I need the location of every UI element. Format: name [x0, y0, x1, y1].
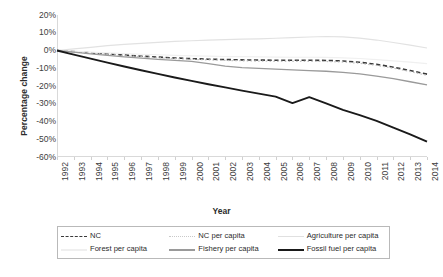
x-tick-mark [158, 157, 159, 160]
y-tick-label: -30% [36, 99, 56, 108]
y-tick-label: 0% [44, 46, 56, 55]
x-tick-mark [107, 157, 108, 160]
x-tick-mark [410, 157, 411, 160]
x-tick-mark [192, 157, 193, 160]
plot-area [57, 15, 427, 157]
legend-item[interactable]: Forest per capita [61, 245, 169, 253]
x-tick-label: 2003 [246, 162, 255, 196]
x-tick-label: 1993 [78, 162, 87, 196]
x-tick-label: 2004 [263, 162, 272, 196]
y-axis-tick-labels: 20%10%0%-10%-20%-30%-40%-50%-60% [22, 0, 56, 180]
chart-container: Percentage change 20%10%0%-10%-20%-30%-4… [0, 0, 443, 277]
x-tick-mark [259, 157, 260, 160]
legend-label: Fishery per capita [198, 245, 258, 253]
chart-legend: NCNC per capitaAgriculture per capitaFor… [57, 226, 390, 259]
x-tick-label: 2013 [414, 162, 423, 196]
legend-swatch-icon [278, 232, 304, 240]
y-tick-label: -10% [36, 64, 56, 73]
series-line [57, 51, 427, 85]
y-tick-label: -40% [36, 117, 56, 126]
y-tick-label: 10% [39, 28, 56, 37]
x-axis-tick-labels: 1992199319941995199619971998199920002001… [0, 160, 443, 206]
x-tick-label: 2010 [364, 162, 373, 196]
legend-swatch-icon [169, 232, 195, 240]
x-tick-label: 2011 [381, 162, 390, 196]
x-tick-label: 2006 [296, 162, 305, 196]
x-tick-mark [124, 157, 125, 160]
x-tick-mark [74, 157, 75, 160]
x-tick-mark [242, 157, 243, 160]
series-line [57, 51, 427, 64]
x-tick-mark [208, 157, 209, 160]
legend-item[interactable]: NC [61, 232, 169, 240]
x-tick-label: 2002 [229, 162, 238, 196]
x-tick-mark [175, 157, 176, 160]
x-tick-mark [393, 157, 394, 160]
x-tick-mark [343, 157, 344, 160]
x-tick-mark [377, 157, 378, 160]
x-tick-mark [225, 157, 226, 160]
series-line [57, 51, 427, 75]
x-tick-label: 1999 [179, 162, 188, 196]
x-tick-mark [292, 157, 293, 160]
legend-label: Fossil fuel per capita [307, 245, 377, 253]
legend-swatch-icon [61, 245, 87, 253]
x-tick-label: 2014 [431, 162, 440, 196]
y-tick-label: 20% [39, 11, 56, 20]
y-tick-label: -20% [36, 82, 56, 91]
legend-swatch-icon [278, 245, 304, 253]
series-line [57, 36, 427, 50]
x-tick-label: 1994 [95, 162, 104, 196]
x-tick-mark [57, 157, 58, 160]
x-tick-label: 1997 [145, 162, 154, 196]
legend-item[interactable]: Agriculture per capita [278, 232, 386, 240]
x-tick-label: 2012 [397, 162, 406, 196]
x-tick-mark [326, 157, 327, 160]
x-tick-label: 1992 [61, 162, 70, 196]
legend-swatch-icon [169, 245, 195, 253]
x-tick-mark [427, 157, 428, 160]
legend-item[interactable]: Fishery per capita [169, 245, 277, 253]
x-tick-label: 2005 [280, 162, 289, 196]
x-axis-title: Year [0, 206, 443, 216]
y-tick-label: -50% [36, 135, 56, 144]
x-tick-label: 1995 [111, 162, 120, 196]
x-tick-mark [360, 157, 361, 160]
x-tick-mark [91, 157, 92, 160]
legend-label: Agriculture per capita [307, 232, 379, 240]
x-tick-label: 2009 [347, 162, 356, 196]
legend-swatch-icon [61, 232, 87, 240]
legend-label: Forest per capita [90, 245, 147, 253]
legend-label: NC [90, 232, 101, 240]
x-tick-label: 2008 [330, 162, 339, 196]
x-tick-label: 2001 [212, 162, 221, 196]
x-tick-mark [141, 157, 142, 160]
x-tick-label: 1996 [128, 162, 137, 196]
x-tick-label: 1998 [162, 162, 171, 196]
x-tick-mark [276, 157, 277, 160]
legend-item[interactable]: Fossil fuel per capita [278, 245, 386, 253]
series-lines [57, 15, 427, 157]
x-tick-label: 2000 [196, 162, 205, 196]
legend-label: NC per capita [198, 232, 244, 240]
x-tick-label: 2007 [313, 162, 322, 196]
x-tick-mark [309, 157, 310, 160]
legend-item[interactable]: NC per capita [169, 232, 277, 240]
